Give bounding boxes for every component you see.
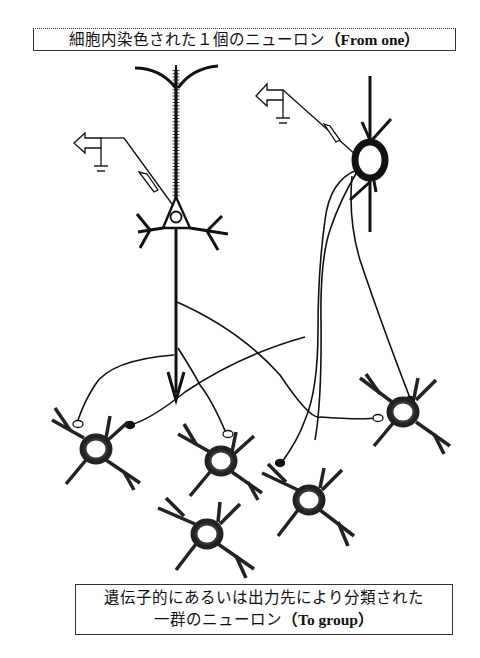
recording-electrode-right bbox=[256, 84, 356, 155]
open-terminal bbox=[73, 421, 83, 428]
source-neuron-label: 細胞内染色された１個のニューロン（From one） bbox=[33, 28, 456, 51]
open-terminal bbox=[223, 431, 233, 438]
synaptic-terminals bbox=[73, 397, 415, 467]
recording-electrode-left bbox=[74, 133, 172, 204]
target-neuron-1 bbox=[52, 408, 140, 490]
filled-terminal bbox=[276, 460, 285, 467]
target-group-label: 遺伝子的にあるいは出力先により分類された 一群のニューロン（To group） bbox=[75, 584, 453, 635]
target-neuron-4 bbox=[158, 498, 254, 578]
target-neuron-3 bbox=[262, 464, 354, 546]
open-terminal bbox=[373, 415, 383, 422]
source-label-en: （From one） bbox=[325, 31, 421, 48]
target-neuron-2 bbox=[178, 424, 262, 500]
multipolar-neuron-upper-right bbox=[350, 76, 391, 232]
neuron-connectivity-diagram bbox=[0, 0, 480, 658]
target-label-line2: 一群のニューロン（To group） bbox=[76, 609, 452, 631]
target-label-line2-en: （To group） bbox=[282, 611, 374, 628]
target-label-line1: 遺伝子的にあるいは出力先により分類された bbox=[76, 587, 452, 609]
source-label-jp: 細胞内染色された１個のニューロン bbox=[69, 31, 325, 49]
target-label-line2-jp: 一群のニューロン bbox=[154, 611, 282, 629]
axon-projections bbox=[78, 170, 410, 462]
pyramidal-neuron bbox=[135, 65, 228, 400]
